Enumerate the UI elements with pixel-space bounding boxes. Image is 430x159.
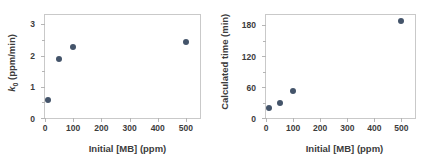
data-point bbox=[277, 100, 283, 106]
y-axis-title-right: Calculated time (min) bbox=[220, 7, 230, 117]
data-point bbox=[56, 56, 62, 62]
data-point bbox=[45, 97, 51, 103]
left-x-tick bbox=[158, 118, 159, 122]
left-x-tick-label: 300 bbox=[122, 124, 136, 133]
right-x-tick-label: 500 bbox=[394, 124, 408, 133]
right-y-tick-label: 60 bbox=[247, 84, 256, 93]
left-x-tick bbox=[186, 118, 187, 122]
left-y-minor-tick bbox=[42, 102, 45, 103]
right-x-tick-label: 400 bbox=[367, 124, 381, 133]
right-x-tick bbox=[266, 118, 267, 122]
y-axis-symbol-left: k bbox=[6, 87, 17, 92]
right-y-minor-tick bbox=[263, 103, 266, 104]
left-y-tick: 1 bbox=[41, 87, 45, 88]
y-axis-subscript-left: 0 bbox=[12, 83, 19, 87]
right-y-tick: 120 bbox=[262, 56, 266, 57]
plot-area-left: 01230100200300400500 bbox=[45, 15, 200, 118]
left-x-tick bbox=[45, 118, 46, 122]
data-point bbox=[183, 39, 189, 45]
data-point bbox=[398, 18, 404, 24]
chart-panel-left: 01230100200300400500 k0 (ppm/min) Initia… bbox=[0, 0, 215, 159]
left-x-tick-label: 200 bbox=[94, 124, 108, 133]
right-y-tick-label: 120 bbox=[242, 52, 256, 61]
right-x-tick-label: 0 bbox=[264, 124, 269, 133]
x-axis-title-right: Initial [MB] (ppm) bbox=[215, 144, 430, 154]
left-x-tick bbox=[73, 118, 74, 122]
left-y-tick: 3 bbox=[41, 24, 45, 25]
left-x-tick-label: 400 bbox=[151, 124, 165, 133]
left-x-tick bbox=[101, 118, 102, 122]
right-y-tick: 180 bbox=[262, 25, 266, 26]
right-y-tick: 60 bbox=[262, 87, 266, 88]
plot-frame-left: 01230100200300400500 bbox=[44, 14, 201, 119]
right-x-tick-label: 100 bbox=[286, 124, 300, 133]
data-point bbox=[266, 105, 272, 111]
plot-frame-right: 0601201800100200300400500 bbox=[265, 14, 416, 119]
figure-container: 01230100200300400500 k0 (ppm/min) Initia… bbox=[0, 0, 430, 159]
right-y-tick-label: 180 bbox=[242, 21, 256, 30]
right-y-minor-tick bbox=[263, 41, 266, 42]
data-point bbox=[70, 44, 76, 50]
y-axis-title-left: k0 (ppm/min) bbox=[7, 8, 19, 118]
left-y-tick: 2 bbox=[41, 56, 45, 57]
left-x-tick-label: 100 bbox=[66, 124, 80, 133]
plot-area-right: 0601201800100200300400500 bbox=[266, 15, 415, 118]
right-y-tick-label: 0 bbox=[251, 115, 256, 124]
right-x-tick bbox=[293, 118, 294, 122]
right-x-tick bbox=[347, 118, 348, 122]
left-y-minor-tick bbox=[42, 40, 45, 41]
right-x-tick bbox=[320, 118, 321, 122]
left-y-tick-label: 3 bbox=[30, 20, 35, 29]
data-point bbox=[290, 88, 296, 94]
y-axis-units-left: (ppm/min) bbox=[6, 34, 17, 83]
right-y-minor-tick bbox=[263, 72, 266, 73]
left-y-minor-tick bbox=[42, 71, 45, 72]
left-y-tick-label: 2 bbox=[30, 52, 35, 61]
right-x-tick-label: 200 bbox=[313, 124, 327, 133]
left-y-tick-label: 0 bbox=[30, 115, 35, 124]
right-x-tick bbox=[374, 118, 375, 122]
chart-panel-right: 0601201800100200300400500 Calculated tim… bbox=[215, 0, 430, 159]
right-x-tick bbox=[401, 118, 402, 122]
left-x-tick-label: 0 bbox=[43, 124, 48, 133]
right-x-tick-label: 300 bbox=[340, 124, 354, 133]
left-y-tick-label: 1 bbox=[30, 83, 35, 92]
x-axis-title-left: Initial [MB] (ppm) bbox=[0, 144, 215, 154]
left-x-tick bbox=[130, 118, 131, 122]
left-x-tick-label: 500 bbox=[179, 124, 193, 133]
